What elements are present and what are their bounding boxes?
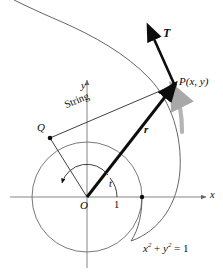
involute-figure: T P(x, y) Q String r t O 1 x y x2 + y2 =… xyxy=(0,0,223,280)
point-p-marker xyxy=(171,82,176,87)
angle-t-label: t xyxy=(109,179,112,190)
equation-rhs: 1 xyxy=(183,242,189,254)
y-axis-label: y xyxy=(81,81,86,92)
tangent-vector-label: T xyxy=(163,27,170,39)
point-q-marker xyxy=(48,136,53,141)
figure-canvas xyxy=(0,0,223,280)
point-p-label: P(x, y) xyxy=(179,76,208,87)
origin-label: O xyxy=(80,200,88,211)
x-axis-label: x xyxy=(210,190,215,201)
circle-equation: x2 + y2 = 1 xyxy=(143,242,189,254)
point-q-label: Q xyxy=(37,122,45,133)
point-unit-marker xyxy=(140,195,144,199)
vector-r-label: r xyxy=(144,124,148,135)
radius-to-q xyxy=(50,138,87,197)
unit-tick-label: 1 xyxy=(114,200,119,211)
motion-arrow xyxy=(175,92,182,132)
